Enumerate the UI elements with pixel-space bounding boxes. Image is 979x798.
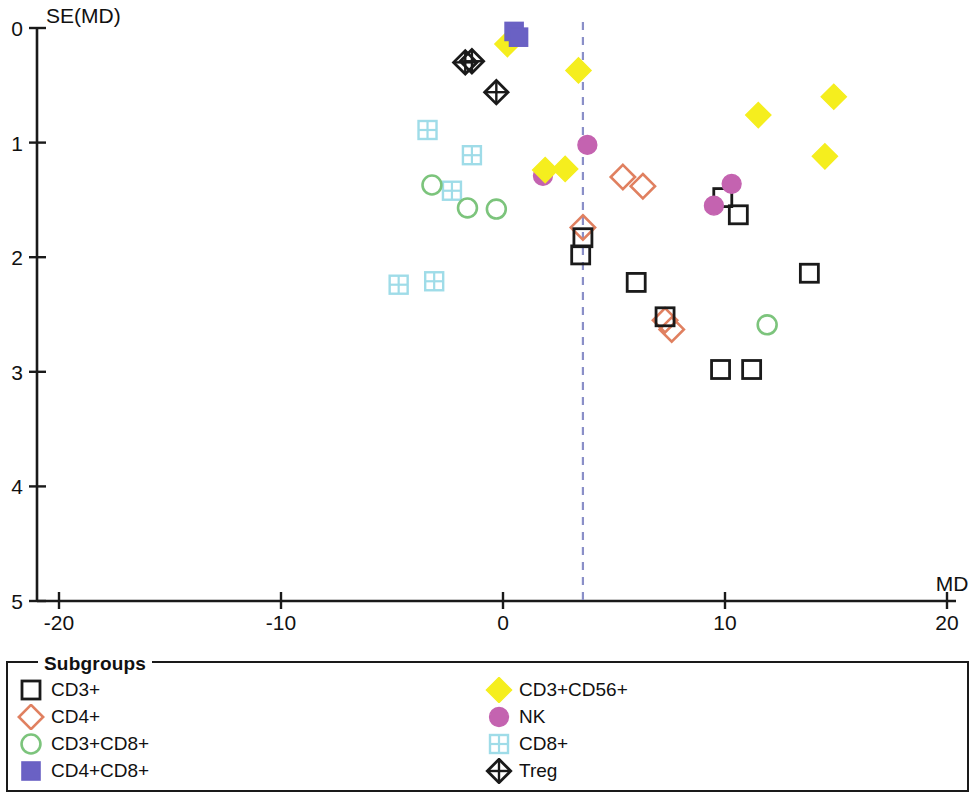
legend-item-label: CD4+CD8+: [51, 760, 149, 782]
filled-diamond-legend-glyph: [486, 677, 511, 702]
diamond-cross-icon: [484, 757, 514, 784]
open-diamond-icon: [16, 703, 46, 730]
legend-column-left: CD3+CD4+CD3+CD8+CD4+CD8+: [16, 676, 149, 784]
data-point: [487, 200, 506, 219]
data-point: [423, 176, 442, 195]
filled-square-icon: [16, 757, 46, 784]
y-axis-title: SE(MD): [46, 4, 121, 27]
data-point: [485, 80, 508, 103]
diamond-cross-legend-glyph: [487, 759, 510, 782]
legend-item-cd4pluscd8plus[interactable]: CD4+CD8+: [16, 757, 149, 784]
data-point: [729, 206, 747, 224]
x-tick-label: 20: [935, 611, 958, 634]
data-point: [704, 196, 723, 215]
data-point: [463, 146, 481, 164]
data-point: [746, 102, 771, 127]
legend-item-treg[interactable]: Treg: [484, 757, 628, 784]
data-point: [458, 198, 477, 217]
data-point: [390, 276, 408, 294]
open-circle-legend-glyph: [22, 734, 41, 753]
legend-item-label: CD3+CD8+: [51, 733, 149, 755]
data-point: [566, 58, 591, 83]
data-point: [419, 121, 437, 139]
series-treg: [454, 50, 508, 104]
x-tick-label: -20: [44, 611, 74, 634]
y-tick-label: 2: [11, 246, 23, 269]
data-point: [821, 84, 846, 109]
open-diamond-legend-glyph: [19, 704, 43, 728]
filled-diamond-icon: [484, 676, 514, 703]
legend-item-label: CD4+: [51, 706, 100, 728]
x-axis-title: MD: [936, 572, 969, 595]
data-point: [812, 144, 837, 169]
legend-item-nk[interactable]: NK: [484, 703, 628, 730]
data-markers-layer: [390, 22, 847, 378]
open-square-legend-glyph: [22, 681, 40, 699]
series-cd3pluscd8plus: [423, 176, 777, 335]
data-point: [627, 273, 645, 291]
filled-circle-icon: [484, 703, 514, 730]
data-point: [578, 135, 597, 154]
data-point: [743, 361, 761, 379]
series-cd3pluscd56plus: [495, 31, 847, 182]
data-point: [443, 182, 461, 200]
x-tick-label: -10: [266, 611, 296, 634]
funnel-plot-figure: 012345-20-1001020SE(MD)MD Subgroups CD3+…: [0, 0, 979, 798]
filled-square-legend-glyph: [22, 762, 40, 780]
legend-item-cd3pluscd56plus[interactable]: CD3+CD56+: [484, 676, 628, 703]
legend-item-cd3plus[interactable]: CD3+: [16, 676, 149, 703]
data-point: [758, 315, 777, 334]
legend-item-label: Treg: [519, 760, 557, 782]
open-square-icon: [16, 676, 46, 703]
y-tick-label: 1: [11, 132, 23, 155]
series-cd8plus: [390, 121, 481, 294]
legend-item-cd4plus[interactable]: CD4+: [16, 703, 149, 730]
data-point: [712, 361, 730, 379]
legend-item-label: CD8+: [519, 733, 568, 755]
series-cd4plus: [571, 165, 684, 342]
data-point: [425, 272, 443, 290]
y-tick-label: 4: [11, 475, 23, 498]
y-tick-label: 0: [11, 17, 23, 40]
legend-item-label: CD3+CD56+: [519, 679, 628, 701]
open-circle-icon: [16, 730, 46, 757]
data-point: [553, 156, 578, 181]
legend-item-label: NK: [519, 706, 545, 728]
grid-square-icon: [484, 730, 514, 757]
y-tick-label: 5: [11, 590, 23, 613]
legend-column-right: CD3+CD56+NKCD8+Treg: [484, 676, 628, 784]
legend-item-cd3pluscd8plus[interactable]: CD3+CD8+: [16, 730, 149, 757]
data-point: [572, 246, 590, 264]
data-point: [800, 264, 818, 282]
x-tick-label: 0: [497, 611, 509, 634]
x-tick-label: 10: [713, 611, 736, 634]
legend-title: Subgroups: [38, 653, 152, 675]
axes-layer: [29, 28, 956, 609]
filled-circle-legend-glyph: [490, 707, 509, 726]
y-tick-label: 3: [11, 361, 23, 384]
grid-square-legend-glyph: [490, 735, 508, 753]
legend-item-label: CD3+: [51, 679, 100, 701]
legend-item-cd8plus[interactable]: CD8+: [484, 730, 628, 757]
data-point: [722, 174, 741, 193]
series-cd3plus: [572, 189, 819, 379]
data-point: [510, 28, 528, 46]
